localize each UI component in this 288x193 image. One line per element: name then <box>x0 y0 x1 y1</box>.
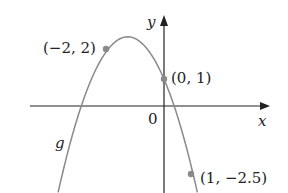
point-0-1 <box>161 76 167 82</box>
point-label-neg2-2: (−2, 2) <box>43 39 96 57</box>
x-axis-arrow-icon <box>260 102 270 110</box>
y-axis-label: y <box>146 13 156 31</box>
y-axis-arrow-icon <box>160 15 168 26</box>
function-label-g: g <box>55 134 65 152</box>
curve-g <box>58 37 197 193</box>
point-1-neg2.5 <box>188 171 194 177</box>
point-neg2-2 <box>103 46 109 52</box>
graph: (−2, 2) (0, 1) (1, −2.5) y x 0 g <box>0 0 288 193</box>
point-label-1-neg2.5: (1, −2.5) <box>200 169 267 187</box>
origin-label: 0 <box>148 110 158 128</box>
x-axis-label: x <box>258 112 267 130</box>
point-label-0-1: (0, 1) <box>171 69 211 87</box>
